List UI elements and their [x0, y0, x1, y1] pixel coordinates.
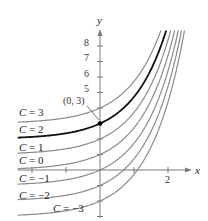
y-axis-label: y: [96, 14, 102, 26]
point-marker: [98, 121, 103, 126]
x-axis-label: x: [194, 164, 200, 176]
y-tick-label-5: 5: [84, 83, 89, 94]
curve-label: C = 0: [19, 154, 44, 166]
curve-label: C = 2: [19, 123, 44, 135]
curve-label: C = −2: [19, 189, 50, 201]
curve-label: C = 3: [19, 106, 44, 118]
y-axis-arrow-icon: [98, 29, 103, 36]
x-axis-arrow-icon: [185, 168, 192, 173]
curve-label: C = 1: [19, 141, 44, 153]
curve-c-2: [18, 31, 167, 138]
curve-label: C = −1: [19, 172, 50, 184]
y-tick-label-7: 7: [84, 52, 89, 63]
y-tick-label-8: 8: [84, 37, 89, 48]
y-tick-label-6: 6: [84, 68, 89, 79]
curve-label: C = −3: [53, 202, 84, 214]
point-label: (0, 3): [63, 95, 85, 107]
x-tick-label-2: 2: [165, 174, 170, 185]
solution-curves-plot: x y 8 7 6 5 2 (0, 3) C = 3C = 2C = 1C = …: [0, 0, 208, 221]
